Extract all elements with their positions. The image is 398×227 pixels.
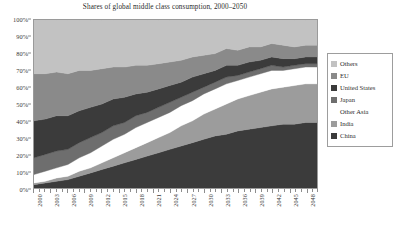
x-axis-tick-label: 2027 <box>190 194 197 207</box>
x-axis-tick-mark <box>215 189 216 192</box>
x-axis-tick-mark <box>267 189 268 192</box>
x-axis-tick-label: 2009 <box>87 194 94 207</box>
x-axis-tick-mark <box>176 189 177 192</box>
x-axis-tick-label: 2030 <box>207 194 214 207</box>
legend-item-label: United States <box>340 85 375 92</box>
legend-item-eu[interactable]: EU <box>331 70 389 82</box>
y-axis-tick-label: 80% <box>16 50 28 57</box>
legend-item-label: Japan <box>340 97 355 104</box>
x-axis-tick-mark <box>153 189 154 193</box>
x-axis-tick-mark <box>250 189 251 192</box>
x-axis-tick-mark <box>255 189 256 193</box>
legend-swatch-icon <box>331 85 337 91</box>
y-axis: 100%90%80%70%60%50%40%30%20%10%0% <box>0 19 31 189</box>
legend-item-label: EU <box>340 73 349 80</box>
x-axis-tick-mark <box>50 189 51 193</box>
legend-swatch-icon <box>331 97 337 103</box>
x-axis-tick-mark <box>164 189 165 192</box>
x-axis-tick-mark <box>238 189 239 193</box>
x-axis-tick-mark <box>301 189 302 192</box>
y-axis-tick-label: 40% <box>16 118 28 125</box>
x-axis-tick-mark <box>39 189 40 192</box>
legend-item-other-asia[interactable]: Other Asia <box>331 106 389 118</box>
x-axis-tick-mark <box>90 189 91 192</box>
y-axis-tick-mark <box>28 104 31 105</box>
y-axis-tick-label: 10% <box>16 169 28 176</box>
x-axis-tick-mark <box>187 189 188 193</box>
legend-item-india[interactable]: India <box>331 118 389 130</box>
legend-item-label: India <box>340 121 354 128</box>
chart-title: Shares of global middle class consumptio… <box>0 3 330 11</box>
x-axis-tick-mark <box>193 189 194 192</box>
legend-swatch-icon <box>331 109 337 115</box>
x-axis-tick-mark <box>119 189 120 193</box>
legend-item-label: Others <box>340 61 358 68</box>
x-axis-tick-label: 2015 <box>121 194 128 207</box>
x-axis-tick-mark <box>136 189 137 193</box>
stacked-area-plot <box>34 20 317 188</box>
chart-screenshot: Shares of global middle class consumptio… <box>0 0 398 227</box>
legend-item-china[interactable]: China <box>331 130 389 142</box>
x-axis-tick-mark <box>33 189 34 193</box>
x-axis-tick-mark <box>79 189 80 192</box>
y-axis-tick-mark <box>28 138 31 139</box>
x-axis-tick-label: 2012 <box>104 194 111 207</box>
x-axis-tick-label: 2024 <box>172 194 179 207</box>
x-axis-tick-mark <box>210 189 211 192</box>
chart-legend: OthersEUUnited StatesJapanOther AsiaIndi… <box>327 53 393 147</box>
y-axis-tick-label: 90% <box>16 33 28 40</box>
y-axis-tick-mark <box>28 121 31 122</box>
y-axis-tick-label: 30% <box>16 135 28 142</box>
x-axis-tick-mark <box>272 189 273 193</box>
x-axis-tick-mark <box>312 189 313 192</box>
legend-item-label: China <box>340 133 356 140</box>
x-axis-tick-mark <box>96 189 97 192</box>
x-axis-tick-mark <box>158 189 159 192</box>
x-axis-tick-mark <box>101 189 102 193</box>
x-axis-tick-mark <box>113 189 114 192</box>
x-axis-tick-mark <box>56 189 57 192</box>
legend-item-label: Other Asia <box>340 109 368 116</box>
x-axis-tick-mark <box>67 189 68 193</box>
x-axis-tick-mark <box>198 189 199 192</box>
x-axis-tick-mark <box>130 189 131 192</box>
x-axis-tick-mark <box>73 189 74 192</box>
x-axis-tick-mark <box>278 189 279 192</box>
plot-area <box>33 19 318 189</box>
legend-item-others[interactable]: Others <box>331 58 389 70</box>
y-axis-tick-label: 0% <box>19 186 28 193</box>
x-axis-tick-label: 2000 <box>36 194 43 207</box>
x-axis-tick-mark <box>307 189 308 193</box>
x-axis-tick-label: 2048 <box>309 194 316 207</box>
x-axis-tick-label: 2018 <box>138 194 145 207</box>
x-axis-tick-label: 2039 <box>258 194 265 207</box>
x-axis-tick-mark <box>290 189 291 193</box>
x-axis-tick-mark <box>244 189 245 192</box>
legend-swatch-icon <box>331 61 337 67</box>
y-axis-tick-mark <box>28 172 31 173</box>
y-axis-tick-label: 70% <box>16 67 28 74</box>
y-axis-tick-label: 100% <box>13 16 28 23</box>
x-axis-tick-mark <box>141 189 142 192</box>
x-axis-tick-mark <box>233 189 234 192</box>
x-axis-tick-mark <box>295 189 296 192</box>
y-axis-tick-label: 50% <box>16 101 28 108</box>
x-axis-tick-label: 2006 <box>70 194 77 207</box>
y-axis-tick-label: 20% <box>16 152 28 159</box>
x-axis-tick-mark <box>44 189 45 192</box>
x-axis-tick-label: 2045 <box>292 194 299 207</box>
y-axis-tick-mark <box>28 53 31 54</box>
legend-swatch-icon <box>331 133 337 139</box>
x-axis-tick-mark <box>147 189 148 192</box>
x-axis-tick-mark <box>84 189 85 193</box>
y-axis-tick-mark <box>28 19 31 20</box>
x-axis-tick-label: 2042 <box>275 194 282 207</box>
x-axis-tick-mark <box>181 189 182 192</box>
legend-item-japan[interactable]: Japan <box>331 94 389 106</box>
x-axis-tick-mark <box>107 189 108 192</box>
x-axis-tick-label: 2036 <box>241 194 248 207</box>
legend-item-united-states[interactable]: United States <box>331 82 389 94</box>
legend-swatch-icon <box>331 121 337 127</box>
x-axis-tick-label: 2021 <box>155 194 162 207</box>
y-axis-tick-mark <box>28 87 31 88</box>
